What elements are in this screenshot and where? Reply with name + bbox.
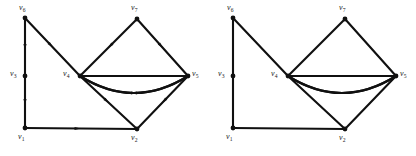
- graph-canvas: [0, 0, 416, 156]
- vertex-dot-v4: [78, 74, 83, 79]
- graph-figure: v6v3v1v4v7v2v5v6v3v1v4v7v2v5: [0, 0, 416, 156]
- edge-e-v1-v2: [233, 128, 345, 129]
- vertex-label-v2: v2: [339, 134, 345, 142]
- arrowhead-e-v6-v3: [23, 44, 26, 50]
- vertex-label-v2: v2: [131, 134, 137, 142]
- vertex-label-v5: v5: [192, 70, 198, 78]
- vertex-dot-v4: [286, 74, 291, 79]
- vertex-dot-v5: [394, 74, 399, 79]
- vertex-dot-v1: [231, 126, 236, 131]
- vertex-label-v4: v4: [271, 70, 277, 78]
- undirected-multigraph: [231, 16, 399, 132]
- vertex-label-v7: v7: [131, 4, 137, 12]
- arrowhead-e-v3-v1: [23, 99, 26, 105]
- vertex-dot-v7: [135, 17, 140, 22]
- edge-e-v5-v2: [345, 76, 396, 129]
- vertex-dot-v3: [231, 74, 236, 79]
- edge-e-v4-v2: [288, 76, 345, 129]
- edge-e-v7-v5: [345, 19, 396, 76]
- vertex-label-v1: v1: [18, 133, 24, 141]
- vertex-label-v3: v3: [10, 70, 16, 78]
- vertex-label-v6: v6: [227, 4, 233, 12]
- vertex-dot-v3: [23, 74, 28, 79]
- vertex-label-v7: v7: [339, 4, 345, 12]
- directed-multigraph: [23, 16, 191, 132]
- edge-e-v1-v2: [25, 128, 137, 129]
- vertex-label-v5: v5: [400, 70, 406, 78]
- vertex-label-v3: v3: [218, 70, 224, 78]
- edge-e-v6-v4: [233, 18, 288, 76]
- vertex-dot-v5: [186, 74, 191, 79]
- vertex-dot-v7: [343, 17, 348, 22]
- vertex-label-v4: v4: [63, 70, 69, 78]
- vertex-label-v1: v1: [226, 133, 232, 141]
- vertex-dot-v2: [343, 127, 348, 132]
- vertex-dot-v6: [231, 16, 236, 21]
- vertex-dot-v2: [135, 127, 140, 132]
- edge-e-v7-v4: [288, 19, 345, 76]
- vertex-dot-v1: [23, 126, 28, 131]
- vertex-dot-v6: [23, 16, 28, 21]
- vertex-label-v6: v6: [19, 4, 25, 12]
